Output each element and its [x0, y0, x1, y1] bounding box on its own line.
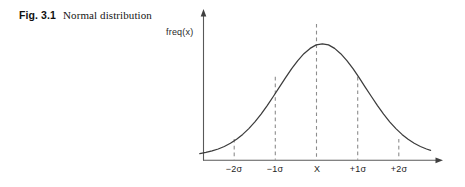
tick-label-plus-1-sigma: +1σ — [350, 164, 366, 174]
x-axis-arrowhead-icon — [436, 157, 444, 163]
tick-label-center-x: X — [314, 164, 320, 174]
x-axis — [203, 157, 443, 163]
tick-label-plus-2-sigma: +2σ — [391, 164, 407, 174]
y-axis-label: freq(x) — [166, 27, 193, 37]
y-axis — [201, 9, 207, 161]
gaussian-curve — [200, 44, 431, 154]
figure-container: Fig. 3.1Normal distribution — [0, 0, 465, 187]
tick-label-minus-2-sigma: −2σ — [226, 164, 242, 174]
y-axis-arrowhead-icon — [201, 9, 207, 17]
tick-label-minus-1-sigma: −1σ — [267, 164, 283, 174]
normal-distribution-plot: freq(x) −2σ −1σ X +1σ +2σ — [0, 0, 465, 187]
plot-svg — [0, 0, 465, 187]
